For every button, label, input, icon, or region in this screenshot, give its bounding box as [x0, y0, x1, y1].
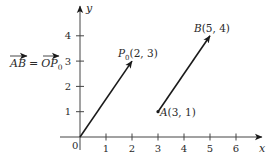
svg-text:AB=OP0: AB=OP0 [9, 57, 63, 72]
y-tick-label: 1 [65, 106, 71, 117]
point-p0-label: P0(2, 3) [117, 47, 158, 62]
vector-op0 [80, 61, 132, 137]
y-axis-label: y [85, 2, 93, 15]
x-axis-label: x [259, 142, 266, 155]
y-tick-label: 3 [65, 56, 71, 67]
y-tick-label: 2 [65, 81, 71, 92]
x-tick-label: 1 [103, 143, 109, 154]
x-tick-label: 5 [207, 143, 213, 154]
origin-label: 0 [72, 140, 78, 151]
vector-diagram: 123456 1234 x y 0 P0(2, 3) A(3, 1) B(5, … [0, 0, 271, 163]
equation-lhs: AB [9, 57, 26, 70]
point-b-label: B(5, 4) [193, 22, 230, 34]
x-tick-label: 3 [155, 143, 161, 154]
x-tick-label: 6 [233, 143, 239, 154]
x-tick-label: 4 [181, 143, 187, 154]
y-ticks: 1234 [65, 30, 84, 117]
x-tick-label: 2 [129, 143, 135, 154]
equation-rhs: OP [41, 57, 58, 70]
vector-ab [158, 36, 210, 112]
vector-equation: AB=OP0 [9, 56, 63, 72]
y-tick-label: 4 [65, 30, 71, 41]
point-a-label: A(3, 1) [159, 106, 196, 118]
